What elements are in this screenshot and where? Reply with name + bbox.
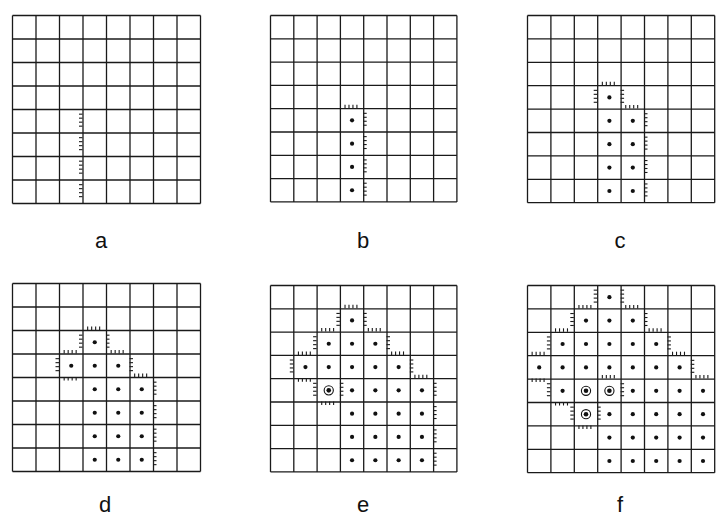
boundary-tick-marks [602,375,614,379]
boundary-tick-marks [594,90,598,102]
region-dot [397,365,401,369]
seed-dot [607,389,612,394]
grid-panel-f [527,285,716,474]
region-dot [537,365,541,369]
boundary-tick-marks [313,337,317,349]
grid-lines [528,286,715,473]
region-dot [373,342,377,346]
seed-dot [326,388,331,393]
region-dot [561,389,565,393]
region-dot [373,435,377,439]
region-dot [140,387,144,391]
region-dot [701,436,705,440]
boundary-tick-marks [64,350,76,354]
region-dot [420,435,424,439]
region-dot [350,435,354,439]
region-dot [701,412,705,416]
region-dot [397,458,401,462]
grid-lines [271,16,457,202]
region-dot [584,319,588,323]
region-dot [350,342,354,346]
boundary-tick-marks [88,327,100,331]
region-dot [420,458,424,462]
region-dot [93,364,97,368]
region-dot [631,342,635,346]
boundary-tick-marks [368,328,380,332]
boundary-tick-marks [602,82,614,86]
boundary-tick-marks [626,305,638,309]
region-dot [350,458,354,462]
panel-label-d: d [85,492,125,514]
seed-dot [584,389,589,394]
region-dot [607,319,611,323]
region-dot [631,436,635,440]
region-dot [631,389,635,393]
boundary-tick-marks [547,337,551,349]
region-dot [678,389,682,393]
region-dot [350,118,354,122]
boundary-tick-marks [322,328,334,332]
region-dot [631,119,635,123]
region-dot [607,342,611,346]
grid-panel-c [527,15,716,204]
region-dot [654,389,658,393]
boundary-tick-marks [79,138,83,150]
region-dot [350,165,354,169]
region-dot [607,459,611,463]
region-dot [607,412,611,416]
region-dot [397,435,401,439]
region-dot [607,436,611,440]
region-dot [631,459,635,463]
region-dot [607,95,611,99]
region-dot [350,365,354,369]
region-dot [373,458,377,462]
boundary-tick-marks [532,352,544,356]
region-dot [93,458,97,462]
boundary-tick-marks [79,161,83,173]
region-dot [607,119,611,123]
region-dot [93,411,97,415]
region-dot [607,365,611,369]
region-dot [420,388,424,392]
region-dot [701,459,705,463]
region-dot [373,412,377,416]
region-dot [350,318,354,322]
boundary-tick-marks [594,290,598,302]
region-dot [678,459,682,463]
region-dot [607,142,611,146]
region-dot [654,436,658,440]
boundary-tick-marks [415,375,427,379]
boundary-tick-marks [579,305,591,309]
boundary-tick-marks [79,335,83,347]
region-dot [350,142,354,146]
boundary-tick-marks [547,384,551,396]
region-dot [654,459,658,463]
region-dot [561,365,565,369]
region-dot [140,458,144,462]
region-dot [631,189,635,193]
region-dot [350,388,354,392]
boundary-tick-marks [336,313,340,325]
region-dot [350,188,354,192]
region-dot [93,387,97,391]
region-dot [373,365,377,369]
region-dot [631,166,635,170]
region-dot [561,342,565,346]
panel-label-c: c [600,228,640,254]
panel-label-b: b [343,228,383,254]
boundary-tick-marks [570,407,574,419]
region-dot [327,342,331,346]
region-dot [93,434,97,438]
region-dot [678,412,682,416]
region-dot [373,388,377,392]
region-dot [397,412,401,416]
boundary-tick-marks [673,352,685,356]
boundary-tick-marks [626,105,638,109]
region-dot [140,434,144,438]
panel-label-a: a [81,228,121,254]
boundary-tick-marks [392,351,404,355]
panel-label-e: e [343,492,383,514]
grid-panel-d [12,283,202,473]
region-dot [701,389,705,393]
region-dot [420,412,424,416]
